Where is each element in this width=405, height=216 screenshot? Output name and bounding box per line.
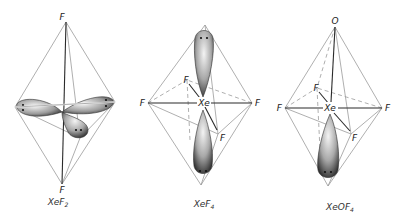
- atom-label-f-right: F: [385, 103, 391, 113]
- f-xe-f-axis: [62, 22, 66, 184]
- figure-xeof4: O Xe F F F F XeOF4: [277, 16, 391, 213]
- vsepr-diagram: F F XeF2 Xe F: [0, 0, 405, 216]
- atom-label-xe: Xe: [197, 98, 210, 108]
- caption-xef2: XeF2: [47, 197, 69, 208]
- atom-label-o: O: [331, 16, 338, 26]
- atom-label-f-back: F: [183, 75, 189, 85]
- lone-pair-lobe-front: [62, 112, 88, 138]
- lone-pair-lobe-top: [194, 31, 213, 98]
- atom-label-xe: Xe: [323, 103, 336, 113]
- figure-xef2: F F XeF2: [15, 12, 115, 208]
- atom-label-f-left: F: [277, 103, 283, 113]
- atom-label-f-right: F: [255, 98, 261, 108]
- xe-o-bond: [331, 27, 335, 102]
- caption-xef4: XeF4: [193, 199, 215, 210]
- atom-label-f-left: F: [140, 98, 146, 108]
- atom-label-f-front: F: [220, 133, 226, 143]
- figure-xef4: Xe F F F F XeF4: [140, 25, 261, 210]
- lone-pair-lobe-bottom: [318, 114, 339, 178]
- lone-pair-lobe-bottom: [193, 110, 212, 174]
- atom-label-f-top: F: [59, 12, 65, 22]
- atom-label-f-bottom: F: [59, 185, 65, 195]
- atom-label-f-front: F: [352, 133, 358, 143]
- atom-label-f-back: F: [313, 83, 319, 93]
- caption-xeof4: XeOF4: [325, 202, 354, 213]
- lone-pair-lobe-left: [17, 99, 62, 116]
